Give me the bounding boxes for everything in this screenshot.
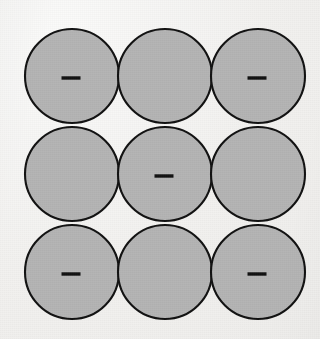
lattice-figure [0, 0, 320, 339]
lattice-sphere [25, 127, 119, 221]
lattice-sphere [25, 29, 119, 123]
lattice-sphere [211, 127, 305, 221]
lattice-sphere [211, 225, 305, 319]
lattice-canvas [0, 0, 320, 339]
lattice-sphere [118, 29, 212, 123]
lattice-sphere [118, 127, 212, 221]
lattice-sphere [118, 225, 212, 319]
lattice-sphere [211, 29, 305, 123]
lattice-sphere [25, 225, 119, 319]
